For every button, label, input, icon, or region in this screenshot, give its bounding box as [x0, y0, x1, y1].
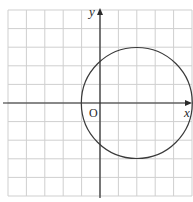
y-axis-arrow-icon [97, 8, 103, 15]
y-axis-label: y [87, 4, 95, 19]
origin-label: O [89, 106, 98, 120]
coordinate-plane: y x O [0, 0, 193, 202]
x-axis-label: x [183, 105, 190, 120]
